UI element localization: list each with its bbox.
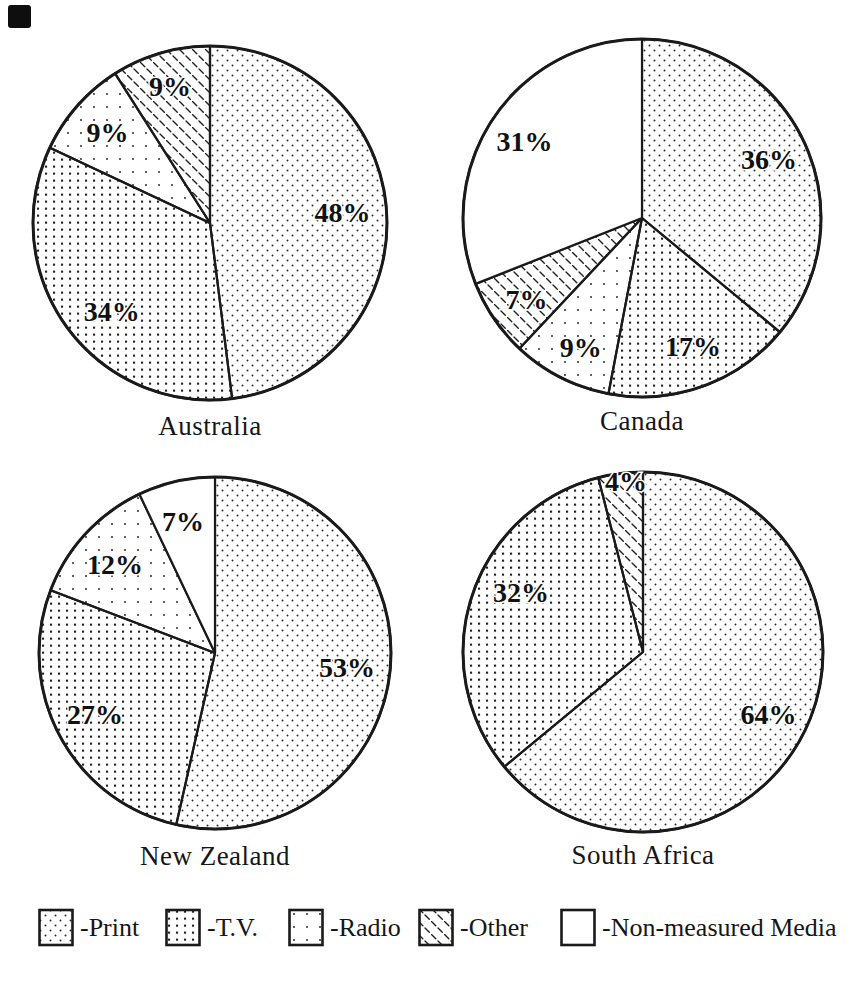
legend-label-tv: -T.V. bbox=[207, 913, 258, 943]
slice-label-south-africa-other: 4% bbox=[605, 466, 647, 497]
slice-label-australia-other: 9% bbox=[149, 71, 191, 102]
legend-label-radio: -Radio bbox=[330, 913, 401, 943]
legend-swatch-print bbox=[38, 908, 74, 948]
chart-title-australia: Australia bbox=[10, 411, 410, 442]
legend-item-print: -Print bbox=[38, 905, 139, 951]
legend-swatch-nonmeasured bbox=[560, 908, 596, 948]
pie-chart-canada: 36%17%9%7%31% Canada bbox=[442, 18, 842, 458]
legend-item-nonmeasured: -Non-measured Media bbox=[560, 905, 837, 951]
pie-svg-australia: 48%34%9%9% bbox=[10, 23, 410, 423]
chart-title-canada: Canada bbox=[442, 406, 842, 437]
slice-label-canada-radio: 9% bbox=[560, 332, 602, 363]
pie-chart-australia: 48%34%9%9% Australia bbox=[10, 23, 410, 463]
pie-chart-new-zealand: 53%27%12%7% New Zealand bbox=[15, 453, 415, 893]
slice-label-canada-other: 7% bbox=[506, 284, 548, 315]
slice-label-south-africa-tv: 32% bbox=[493, 577, 549, 608]
legend-label-nonmeasured: -Non-measured Media bbox=[602, 913, 837, 943]
pie-svg-south-africa: 64%32%4% bbox=[443, 452, 843, 852]
slice-label-south-africa-print: 64% bbox=[741, 699, 797, 730]
figure-page: 48%34%9%9% Australia 36%17%9%7%31% Canad… bbox=[0, 0, 852, 986]
chart-title-south-africa: South Africa bbox=[443, 840, 843, 871]
slice-label-canada-nonmeasured: 31% bbox=[497, 126, 553, 157]
legend-label-other: -Other bbox=[460, 913, 528, 943]
legend: -Print -T.V. -Radio -Other -Non-measured… bbox=[0, 905, 852, 955]
slice-label-australia-radio: 9% bbox=[87, 117, 129, 148]
pie-svg-canada: 36%17%9%7%31% bbox=[442, 18, 842, 418]
slice-label-canada-print: 36% bbox=[741, 144, 797, 175]
legend-item-tv: -T.V. bbox=[165, 905, 258, 951]
chart-title-new-zealand: New Zealand bbox=[15, 841, 415, 872]
slice-label-australia-print: 48% bbox=[314, 197, 370, 228]
legend-item-radio: -Radio bbox=[288, 905, 401, 951]
pie-chart-south-africa: 64%32%4% South Africa bbox=[443, 452, 843, 892]
legend-swatch-other bbox=[418, 908, 454, 948]
pie-svg-new-zealand: 53%27%12%7% bbox=[15, 453, 415, 853]
slice-label-new-zealand-print: 53% bbox=[319, 652, 375, 683]
slice-label-australia-tv: 34% bbox=[84, 296, 140, 327]
slice-label-new-zealand-radio: 12% bbox=[87, 549, 143, 580]
legend-swatch-tv bbox=[165, 908, 201, 948]
legend-label-print: -Print bbox=[80, 913, 139, 943]
legend-swatch-radio bbox=[288, 908, 324, 948]
slice-label-canada-tv: 17% bbox=[665, 331, 721, 362]
slice-label-new-zealand-nonmeasured: 7% bbox=[162, 506, 204, 537]
slice-label-new-zealand-tv: 27% bbox=[67, 699, 123, 730]
legend-item-other: -Other bbox=[418, 905, 528, 951]
